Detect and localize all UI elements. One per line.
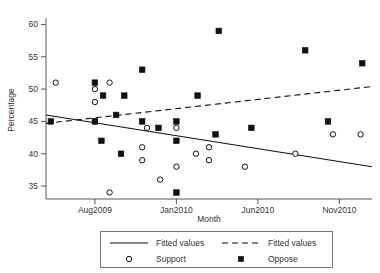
data-point-oppose	[100, 93, 106, 99]
data-point-support	[92, 99, 97, 104]
data-point-oppose	[92, 80, 98, 86]
data-points-group	[48, 28, 365, 195]
data-point-oppose	[195, 93, 201, 99]
scatter-plot-svg: 354045505560 Aug2009Jan2010Jun2010Nov201…	[0, 0, 380, 273]
data-point-oppose	[302, 48, 308, 54]
data-point-oppose	[113, 112, 119, 118]
data-point-support	[330, 132, 335, 137]
legend: Fitted values Fitted values Support Oppo…	[101, 232, 333, 268]
y-tick-label: 55	[29, 52, 39, 62]
data-point-oppose	[92, 119, 98, 125]
data-point-oppose	[174, 138, 180, 144]
chart-figure: 354045505560 Aug2009Jan2010Jun2010Nov201…	[0, 0, 380, 273]
y-tick-label: 40	[29, 149, 39, 159]
y-tick-label: 60	[29, 19, 39, 29]
x-tick-label: Nov2010	[322, 205, 356, 215]
legend-swatch-open-circle	[126, 256, 131, 261]
data-point-oppose	[213, 132, 219, 138]
legend-label-fitted-support: Fitted values	[156, 238, 204, 248]
legend-label-support: Support	[156, 254, 186, 264]
data-point-support	[107, 190, 112, 195]
data-point-support	[193, 151, 198, 156]
x-tick-label: Aug2009	[78, 205, 112, 215]
data-point-oppose	[139, 119, 145, 125]
data-point-oppose	[174, 190, 180, 196]
data-point-support	[144, 125, 149, 130]
y-axis-title: Percentage	[6, 88, 16, 132]
data-point-support	[139, 145, 144, 150]
x-tick-label: Jan2010	[160, 205, 193, 215]
data-point-support	[293, 151, 298, 156]
data-point-support	[174, 164, 179, 169]
data-point-oppose	[174, 119, 180, 125]
data-point-support	[358, 132, 363, 137]
data-point-support	[53, 80, 58, 85]
legend-label-oppose: Oppose	[268, 254, 298, 264]
data-point-oppose	[48, 119, 54, 125]
legend-swatch-filled-square	[238, 256, 243, 261]
data-point-oppose	[121, 93, 127, 99]
data-point-oppose	[118, 151, 124, 157]
data-point-oppose	[249, 125, 255, 131]
y-tick-label: 45	[29, 116, 39, 126]
x-tick-label: Jun2010	[242, 205, 275, 215]
data-point-oppose	[359, 60, 365, 66]
x-axis-ticks: Aug2009Jan2010Jun2010Nov2010	[78, 199, 357, 215]
data-point-support	[92, 86, 97, 91]
data-point-oppose	[99, 138, 105, 144]
data-point-support	[157, 177, 162, 182]
y-tick-label: 50	[29, 84, 39, 94]
x-axis-title: Month	[197, 214, 221, 224]
y-tick-label: 35	[29, 181, 39, 191]
data-point-oppose	[139, 67, 145, 73]
legend-label-fitted-oppose: Fitted values	[268, 238, 316, 248]
data-point-support	[107, 80, 112, 85]
data-point-support	[206, 145, 211, 150]
data-point-support	[242, 164, 247, 169]
data-point-oppose	[156, 125, 162, 131]
fitted-lines-group	[46, 87, 372, 167]
data-point-oppose	[325, 119, 331, 125]
data-point-support	[139, 158, 144, 163]
data-point-oppose	[216, 28, 222, 34]
y-axis-ticks: 354045505560	[29, 19, 46, 191]
data-point-support	[206, 158, 211, 163]
data-point-support	[174, 125, 179, 130]
